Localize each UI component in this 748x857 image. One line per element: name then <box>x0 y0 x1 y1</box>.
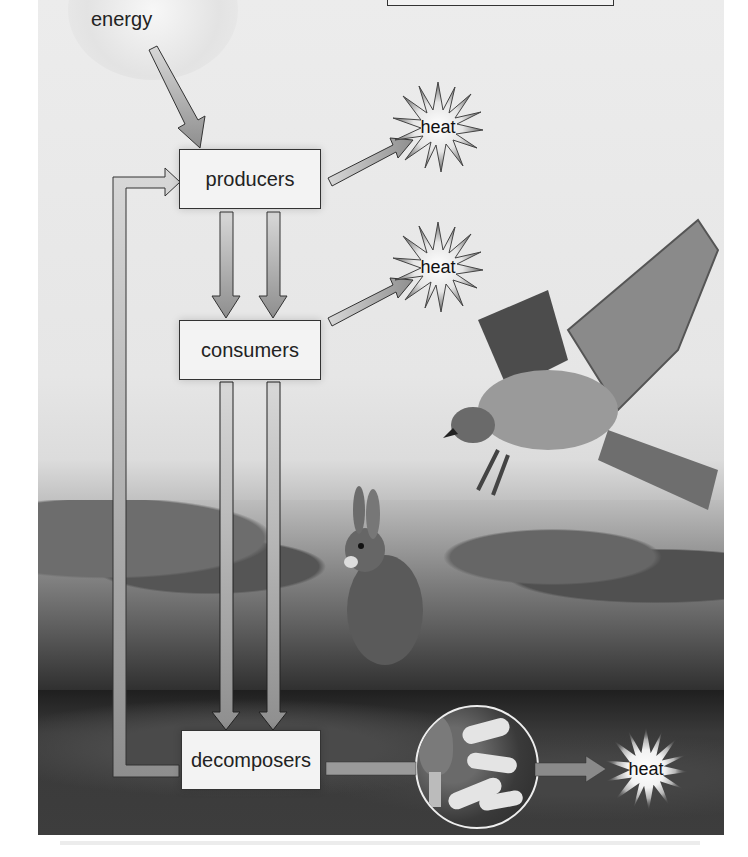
heat-burst-decomposers: heat <box>604 727 688 811</box>
producers-label: producers <box>206 168 295 191</box>
energy-label: energy <box>91 8 152 31</box>
bottom-margin <box>0 835 748 857</box>
ecosystem-scene: energy producers consumers decomposers h… <box>38 0 724 835</box>
heat-label-decomposers: heat <box>628 759 663 780</box>
consumers-label: consumers <box>201 339 299 362</box>
page: energy producers consumers decomposers h… <box>0 0 748 857</box>
heat-burst-producers: heat <box>393 82 483 172</box>
decomposers-box: decomposers <box>181 730 321 790</box>
consumers-box: consumers <box>179 320 321 380</box>
producers-box: producers <box>179 149 321 209</box>
flow-arrows <box>38 0 724 835</box>
arrow-energy-to-producers <box>149 46 205 148</box>
decomposers-label: decomposers <box>191 749 311 772</box>
faint-bleed-text <box>60 841 700 845</box>
heat-burst-consumers: heat <box>393 222 483 312</box>
heat-label-consumers: heat <box>420 257 455 278</box>
heat-label-producers: heat <box>420 117 455 138</box>
